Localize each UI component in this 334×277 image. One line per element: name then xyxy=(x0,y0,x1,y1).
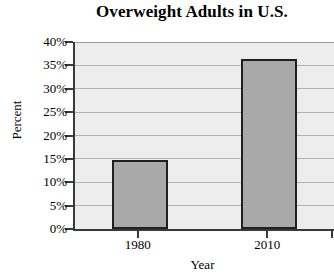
plot-area xyxy=(73,42,334,231)
y-axis-tick-label: 20% xyxy=(13,129,67,142)
y-axis-tick-label: 5% xyxy=(13,199,67,212)
x-axis-title: Year xyxy=(73,258,332,272)
bar xyxy=(241,59,297,229)
y-axis-tick-label: 0% xyxy=(13,222,67,235)
y-axis-tick-label: 10% xyxy=(13,175,67,188)
y-axis-tick-label: 35% xyxy=(13,58,67,71)
gridline xyxy=(75,42,334,43)
x-axis-tick-label: 1980 xyxy=(93,238,183,252)
y-axis-tick-label: 30% xyxy=(13,82,67,95)
bar xyxy=(112,160,168,229)
y-axis-tick-label: 40% xyxy=(13,35,67,48)
x-axis-tick-label: 2010 xyxy=(222,238,312,252)
y-axis-tick-label: 15% xyxy=(13,152,67,165)
chart-title: Overweight Adults in U.S. xyxy=(52,1,332,23)
y-axis-tick-label: 25% xyxy=(13,105,67,118)
x-axis-tick-mark xyxy=(331,231,333,238)
